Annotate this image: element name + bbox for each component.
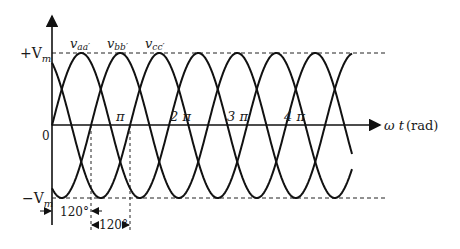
dim2-label: 120° — [99, 218, 128, 232]
x-axis-label: ω t(rad) — [384, 118, 438, 133]
series-label-vcc: vcc′ — [145, 36, 164, 52]
minus-vm-label: −Vm — [22, 190, 53, 209]
x-tick-3pi: 3 π — [227, 109, 248, 124]
x-tick-4pi: 4 π — [283, 109, 305, 124]
zero-label: 0 — [42, 129, 50, 143]
plus-vm-label: +Vm — [20, 45, 51, 64]
series-label-vaa: vaa′ — [70, 36, 90, 52]
series-label-vbb: vbb′ — [107, 36, 128, 52]
x-tick-2pi: 2 π — [169, 109, 191, 124]
x-tick-pi: π — [115, 109, 125, 124]
three-phase-waveform-diagram: +Vm 0 −Vm π 2 π 3 π 4 π ω t(rad) vaa′ vb… — [0, 0, 460, 249]
dim1-label: 120° — [60, 205, 89, 219]
